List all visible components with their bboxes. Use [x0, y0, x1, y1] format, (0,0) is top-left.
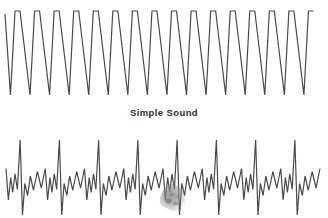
simple-sound-waveform-path — [5, 11, 313, 95]
simple-sound-caption: Simple Sound — [0, 107, 328, 119]
sound-waveform-figure: Simple Sound — [0, 0, 328, 218]
